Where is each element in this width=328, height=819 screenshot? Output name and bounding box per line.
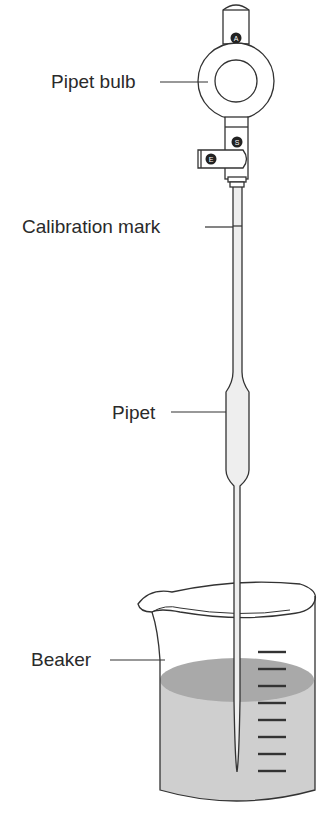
valve-a-icon[interactable]: A	[231, 33, 242, 44]
pipet-diagram: A S E	[0, 0, 328, 819]
svg-text:E: E	[209, 156, 214, 163]
leader-lines	[110, 82, 233, 660]
pipet-bulb-label: Pipet bulb	[51, 72, 136, 91]
svg-text:S: S	[235, 139, 240, 146]
pipet-label: Pipet	[112, 403, 155, 422]
valve-e-icon[interactable]: E	[206, 154, 217, 165]
valve-s-icon[interactable]: S	[232, 137, 243, 148]
beaker	[138, 582, 315, 801]
svg-text:A: A	[234, 35, 239, 42]
beaker-label: Beaker	[31, 650, 91, 669]
calibration-mark-label: Calibration mark	[22, 217, 160, 236]
